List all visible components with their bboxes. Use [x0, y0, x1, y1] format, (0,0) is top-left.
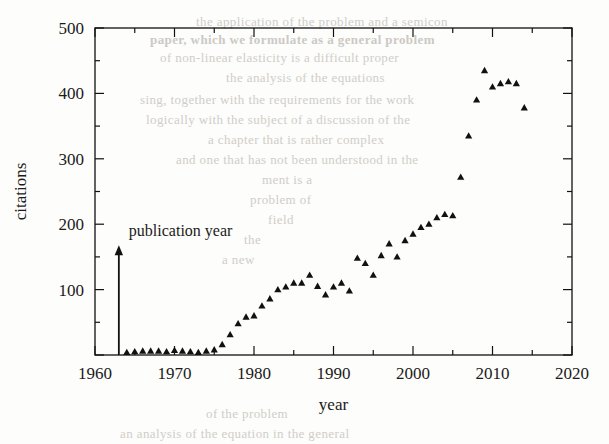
data-point-marker: [409, 230, 416, 236]
data-point-marker: [417, 224, 424, 230]
data-point-marker: [394, 253, 401, 259]
data-point-marker: [258, 302, 265, 308]
data-point-marker: [242, 313, 249, 319]
data-point-marker: [497, 80, 504, 86]
y-axis-tick-labels: 100200300400500: [59, 19, 85, 300]
x-tick-label: 2020: [555, 364, 589, 383]
x-axis-ticks: [95, 28, 572, 355]
data-point-marker: [203, 347, 210, 353]
data-point-marker: [449, 212, 456, 218]
data-point-marker: [171, 347, 178, 353]
x-tick-label: 1990: [317, 364, 351, 383]
x-axis-title: year: [319, 395, 349, 414]
x-tick-label: 1960: [78, 364, 112, 383]
data-point-marker: [250, 312, 257, 318]
y-tick-label: 400: [59, 84, 85, 103]
x-tick-label: 2000: [396, 364, 430, 383]
y-axis-ticks: [95, 28, 572, 355]
data-point-marker: [179, 347, 186, 353]
data-point-marker: [338, 279, 345, 285]
y-axis-title: citations: [11, 163, 30, 221]
data-point-marker: [306, 271, 313, 277]
data-point-marker: [370, 271, 377, 277]
data-point-marker: [386, 240, 393, 246]
data-point-marker: [227, 331, 234, 337]
x-tick-label: 1970: [158, 364, 192, 383]
data-point-marker: [123, 349, 130, 355]
data-point-marker: [211, 346, 218, 352]
data-point-marker: [274, 286, 281, 292]
data-point-marker: [362, 260, 369, 266]
data-point-marker: [441, 211, 448, 217]
data-point-marker: [465, 132, 472, 138]
publication-year-label: publication year: [129, 222, 233, 240]
data-point-marker: [235, 320, 242, 326]
data-point-marker: [513, 80, 520, 86]
data-point-marker: [219, 341, 226, 347]
data-point-marker: [330, 283, 337, 289]
data-point-marker: [139, 347, 146, 353]
data-point-marker: [425, 220, 432, 226]
data-point-marker: [354, 254, 361, 260]
publication-year-arrow: [115, 245, 123, 355]
data-point-marker: [298, 279, 305, 285]
y-tick-label: 500: [59, 19, 85, 38]
data-point-marker: [473, 96, 480, 102]
y-tick-label: 200: [59, 215, 85, 234]
data-point-marker: [481, 67, 488, 73]
data-point-markers: [123, 67, 528, 355]
data-point-marker: [147, 347, 154, 353]
data-point-marker: [322, 291, 329, 297]
data-point-marker: [195, 349, 202, 355]
data-point-marker: [433, 214, 440, 220]
data-point-marker: [282, 283, 289, 289]
data-point-marker: [489, 83, 496, 89]
data-point-marker: [457, 173, 464, 179]
data-point-marker: [505, 78, 512, 84]
data-point-marker: [290, 279, 297, 285]
y-tick-label: 300: [59, 150, 85, 169]
x-tick-label: 2010: [476, 364, 510, 383]
y-tick-label: 100: [59, 281, 85, 300]
x-tick-label: 1980: [237, 364, 271, 383]
data-point-marker: [155, 347, 162, 353]
data-point-marker: [266, 295, 273, 301]
data-point-marker: [314, 283, 321, 289]
data-point-marker: [346, 287, 353, 293]
data-point-marker: [378, 252, 385, 258]
data-point-marker: [401, 237, 408, 243]
data-point-marker: [131, 348, 138, 354]
data-point-marker: [187, 348, 194, 354]
plot-frame: [95, 28, 572, 355]
x-axis-tick-labels: 1960197019801990200020102020: [78, 364, 589, 383]
data-point-marker: [163, 348, 170, 354]
data-point-marker: [521, 104, 528, 110]
citations-per-year-chart: 1960197019801990200020102020 10020030040…: [0, 0, 609, 444]
